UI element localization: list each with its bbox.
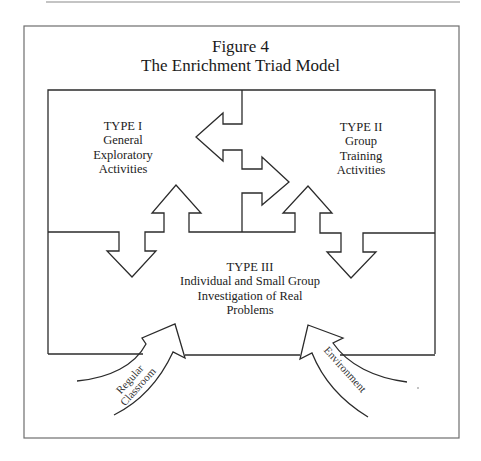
type-i-heading: TYPE I xyxy=(73,119,173,133)
type-ii-label: TYPE II Group Training Activities xyxy=(311,120,411,177)
type-iii-line: Investigation of Real xyxy=(160,289,340,303)
type-iii-heading: TYPE III xyxy=(160,260,340,274)
type-ii-line: Group xyxy=(311,134,411,148)
type-iii-label: TYPE III Individual and Small Group Inve… xyxy=(160,260,340,317)
type-iii-line: Problems xyxy=(160,303,340,317)
type-i-line: General xyxy=(73,133,173,147)
type-iii-line: Individual and Small Group xyxy=(160,274,340,288)
type-i-line: Exploratory xyxy=(73,148,173,162)
type-ii-line: Training xyxy=(311,149,411,163)
speck xyxy=(417,387,419,389)
type-i-line: Activities xyxy=(73,162,173,176)
type-ii-line: Activities xyxy=(311,163,411,177)
figure-number: Figure 4 xyxy=(0,38,481,56)
type-ii-heading: TYPE II xyxy=(311,120,411,134)
figure-title: The Enrichment Triad Model xyxy=(0,57,481,75)
type-i-label: TYPE I General Exploratory Activities xyxy=(73,119,173,176)
arrow-type-ii-to-type-i xyxy=(196,90,289,232)
